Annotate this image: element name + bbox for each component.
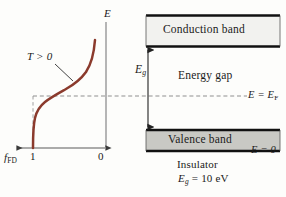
insulator-band-diagram-figure: E T > 0 fFD 1 0 Conduction band Eg Energ… [0, 0, 286, 197]
x-tick-label-one: 1 [30, 151, 36, 162]
x-tick-label-zero: 0 [98, 151, 104, 162]
fermi-level-label: E = EF [248, 90, 278, 102]
valence-band-label: Valence band [168, 134, 232, 146]
fermi-level-label-E: E [248, 89, 255, 100]
energy-axis-label: E [104, 8, 111, 19]
energy-gap-symbol-subscript: g [142, 68, 146, 77]
fermi-dirac-axis-label: fFD [4, 152, 17, 165]
gap-value-caption: Eg = 10 eV [178, 173, 229, 186]
fermi-level-label-subscript: F [274, 94, 278, 102]
energy-gap-label: Energy gap [178, 70, 232, 82]
fermi-dirac-axis-label-subscript: FD [7, 156, 17, 165]
fermi-level-label-equals-E: = E [255, 89, 275, 100]
material-caption: Insulator [177, 159, 218, 170]
gap-value-symbol-E: E [178, 172, 185, 184]
energy-gap-symbol-label: Eg [135, 64, 146, 77]
curve-label-leader-line [55, 64, 73, 81]
gap-value-number: = 10 eV [189, 172, 229, 184]
zero-energy-level-label: E = 0 [251, 145, 276, 156]
conduction-band-label: Conduction band [163, 24, 245, 36]
temperature-curve-label: T > 0 [27, 51, 52, 62]
